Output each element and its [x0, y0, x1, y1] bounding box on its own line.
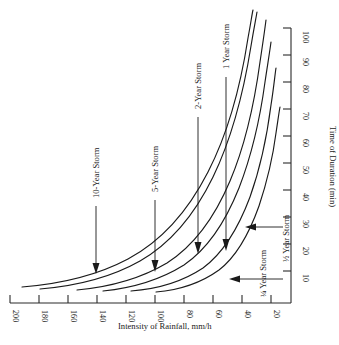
- y-tick-label: 70: [301, 112, 310, 120]
- y-tick-label: 60: [301, 139, 310, 147]
- label-1-year-storm: 1 Year Storm: [221, 24, 231, 69]
- label-2-year-storm: 2-Year Storm: [193, 63, 203, 109]
- y-axis-title: Time of Duration (min): [328, 126, 338, 207]
- x-tick-label: 200: [11, 310, 20, 322]
- x-tick-label: 80: [185, 310, 194, 318]
- curve-1-year: [103, 42, 271, 291]
- x-tick-label: 40: [243, 310, 252, 318]
- y-tick-label: 40: [301, 193, 310, 201]
- arrowhead-quarter-year: [229, 276, 240, 283]
- x-tick-label: 160: [69, 310, 78, 322]
- x-tick-label: 180: [40, 310, 49, 322]
- y-tick-labels: 10 20 30 40 50 60 70 80 90 100: [301, 31, 310, 282]
- x-tick-label: 20: [272, 310, 281, 318]
- label-quarter-year-storm: ¼ Year Storm: [258, 249, 268, 297]
- label-10-year-storm: 10-Year Storm: [91, 147, 101, 198]
- arrowhead-2-year: [195, 242, 202, 254]
- arrowhead-half-year: [245, 224, 256, 231]
- y-tick-label: 50: [301, 166, 310, 174]
- x-tick-label: 140: [98, 310, 107, 322]
- x-axis-title: Intensity of Rainfall, mm/h: [118, 321, 212, 331]
- label-5-year-storm: 5-Year Storm: [150, 146, 160, 192]
- y-tick-label: 10: [301, 274, 310, 282]
- y-tick-label: 80: [301, 85, 310, 93]
- y-tick-label: 100: [301, 31, 310, 43]
- idf-curve-plot: 200 180 160 140 120 100 80 60 40 20 10 2…: [0, 0, 339, 345]
- y-tick-label: 90: [301, 58, 310, 66]
- x-axis-ticks: [10, 295, 271, 303]
- curve-10-year: [22, 10, 253, 287]
- y-tick-label: 20: [301, 247, 310, 255]
- chart-figure: 200 180 160 140 120 100 80 60 40 20 10 2…: [0, 0, 339, 345]
- label-half-year-storm: ½ Year Storm: [281, 214, 291, 262]
- arrowhead-1-year: [223, 239, 230, 251]
- annotation-leaders: [93, 77, 284, 283]
- x-tick-label: 60: [214, 310, 223, 318]
- y-tick-label: 30: [301, 220, 310, 228]
